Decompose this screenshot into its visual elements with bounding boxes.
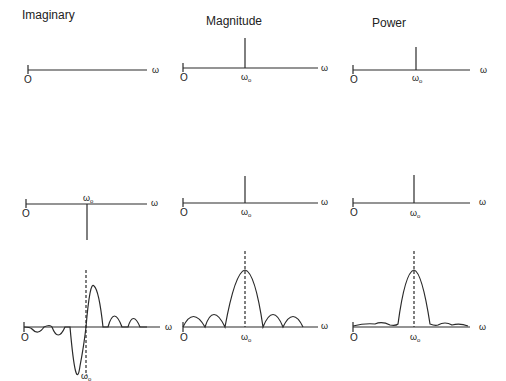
svg-text:ω: ω <box>241 207 248 217</box>
svg-text:ω: ω <box>412 73 419 83</box>
origin-label: O <box>180 207 188 218</box>
omega0-label: ω o <box>241 332 252 343</box>
power-row3-plot <box>353 251 470 332</box>
omega-axis-label: ω <box>321 197 328 207</box>
origin-label: O <box>350 74 358 85</box>
omega0-label: ω o <box>241 207 252 218</box>
origin-label: O <box>350 332 358 343</box>
spectra-diagram: Imaginary Magnitude Power O O O O O O O … <box>0 0 506 381</box>
imaginary-row3-plot <box>24 270 160 376</box>
svg-text:ω: ω <box>410 208 417 218</box>
power-row1-plot <box>353 47 470 74</box>
svg-text:o: o <box>248 77 252 83</box>
imaginary-row1-plot <box>28 65 147 74</box>
omega0-label: ω o <box>83 193 94 204</box>
omega0-label: ω o <box>412 73 423 84</box>
omega-axis-label: ω <box>480 65 487 75</box>
origin-label: O <box>22 208 30 219</box>
omega0-label: ω o <box>410 208 421 219</box>
svg-text:o: o <box>248 337 252 343</box>
omega-axis-label: ω <box>321 321 328 331</box>
title-power: Power <box>372 16 406 30</box>
omega0-label: ω o <box>241 72 252 83</box>
omega-axis-label: ω <box>479 322 486 332</box>
svg-text:o: o <box>88 376 92 381</box>
svg-text:ω: ω <box>81 371 88 381</box>
imaginary-row2-plot <box>26 199 147 240</box>
svg-text:o: o <box>417 337 421 343</box>
title-magnitude: Magnitude <box>206 14 262 28</box>
omega-axis-label: ω <box>165 322 172 332</box>
origin-label: O <box>180 72 188 83</box>
origin-label: O <box>350 207 358 218</box>
svg-text:ω: ω <box>83 193 90 203</box>
svg-text:ω: ω <box>410 332 417 342</box>
svg-text:ω: ω <box>241 72 248 82</box>
svg-text:o: o <box>417 213 421 219</box>
magnitude-row1-plot <box>183 38 318 72</box>
magnitude-row2-plot <box>183 176 318 207</box>
power-row2-plot <box>353 175 470 207</box>
svg-text:o: o <box>419 78 423 84</box>
origin-label: O <box>21 332 29 343</box>
origin-label: O <box>24 74 32 85</box>
origin-label: O <box>180 332 188 343</box>
svg-text:o: o <box>248 212 252 218</box>
omega-axis-label: ω <box>151 198 158 208</box>
title-imaginary: Imaginary <box>22 8 75 22</box>
omega-axis-label: ω <box>152 65 159 75</box>
omega-axis-label: ω <box>321 63 328 73</box>
svg-text:ω: ω <box>241 332 248 342</box>
magnitude-row3-plot <box>183 251 318 332</box>
omega0-label: ω o <box>410 332 421 343</box>
omega0-label: ω o <box>81 371 92 381</box>
omega-axis-label: ω <box>479 197 486 207</box>
svg-text:o: o <box>90 198 94 204</box>
